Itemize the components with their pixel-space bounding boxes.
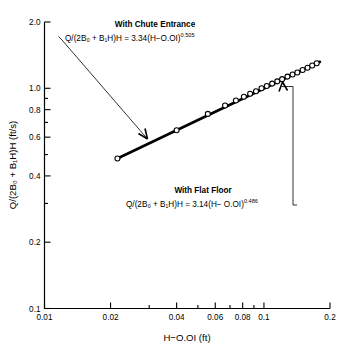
- chart-background: [0, 0, 351, 352]
- data-point: [253, 89, 258, 94]
- x-tick-label: 0.2: [324, 313, 336, 322]
- data-point: [295, 70, 300, 75]
- y-tick-label: 0.1: [29, 305, 41, 314]
- data-point: [300, 68, 305, 73]
- chute-entrance-title: With Chute Entrance: [115, 20, 196, 29]
- data-point: [248, 91, 253, 96]
- y-tick-label: 0.4: [29, 172, 41, 181]
- x-axis-label: H−O.OI (ft): [163, 332, 210, 343]
- flat-floor-title: With Flat Floor: [174, 186, 232, 195]
- x-tick-label: 0.06: [207, 313, 223, 322]
- figure-container: 0.010.020.040.060.080.10.2 0.10.20.40.60…: [0, 0, 351, 352]
- data-point: [115, 156, 120, 161]
- y-tick-label: 0.8: [29, 106, 41, 115]
- y-tick-label: 1.0: [29, 84, 41, 93]
- data-point: [314, 61, 319, 66]
- x-tick-label: 0.02: [103, 313, 119, 322]
- y-tick-label: 0.6: [29, 133, 41, 142]
- data-point: [280, 77, 285, 82]
- data-point: [264, 83, 269, 88]
- data-point: [285, 74, 290, 79]
- x-tick-label: 0.01: [37, 313, 53, 322]
- y-tick-label: 2.0: [29, 18, 41, 27]
- data-point: [290, 72, 295, 77]
- data-point: [241, 94, 246, 99]
- y-tick-label: 0.2: [29, 238, 41, 247]
- data-point: [259, 86, 264, 91]
- log-log-scatter-chart: 0.010.020.040.060.080.10.2 0.10.20.40.60…: [0, 0, 351, 352]
- data-point: [233, 98, 238, 103]
- x-tick-label: 0.08: [235, 313, 251, 322]
- data-point: [205, 111, 210, 116]
- x-tick-label: 0.1: [258, 313, 270, 322]
- x-tick-label: 0.04: [169, 313, 185, 322]
- y-axis-label: Q/(2B₀ + B₁H)H (ft/s): [7, 121, 18, 210]
- data-point: [174, 128, 179, 133]
- flat-floor-equation: Q/(2B₀ + B₁H)H = 3.14(H− O.OI)0.486: [126, 198, 258, 209]
- data-point: [275, 79, 280, 84]
- chute-entrance-equation: Q/(2B₀ + B₁H)H = 3.34(H−O.OI)0.505: [65, 32, 195, 43]
- data-point: [223, 103, 228, 108]
- data-point: [270, 81, 275, 86]
